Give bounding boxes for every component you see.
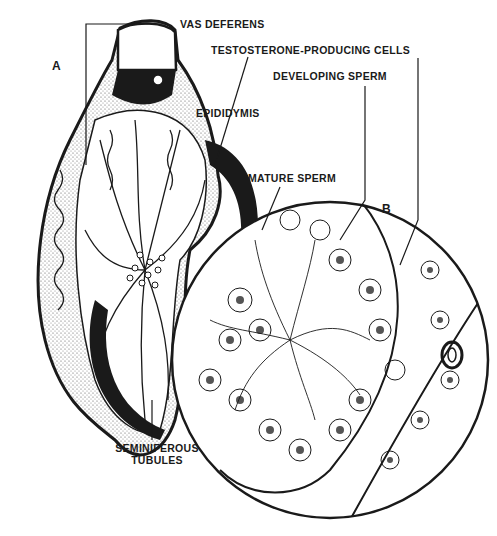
label-seminiferous-line1: SEMINIFEROUS <box>97 442 217 454</box>
panel-label-a: A <box>52 60 61 72</box>
panel-label-b: B <box>382 203 391 215</box>
testis-illustration <box>0 0 497 536</box>
magnified-tubule-section-b <box>172 200 488 520</box>
label-mature-sperm: MATURE SPERM <box>248 172 336 184</box>
label-epididymis: EPIDIDYMIS <box>196 107 260 119</box>
label-seminiferous-line2: TUBULES <box>97 454 217 466</box>
label-vas-deferens: VAS DEFERENS <box>180 18 265 30</box>
label-testosterone-producing-cells: TESTOSTERONE-PRODUCING CELLS <box>211 44 410 56</box>
label-seminiferous-tubules: SEMINIFEROUS TUBULES <box>97 442 217 466</box>
label-developing-sperm: DEVELOPING SPERM <box>273 70 387 82</box>
